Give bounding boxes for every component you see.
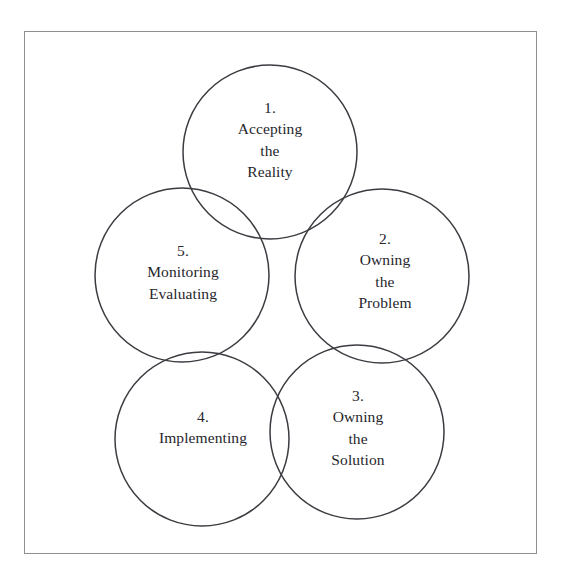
diagram-canvas: 1.AcceptingtheReality 2.OwningtheProblem… [0,0,566,586]
diagram-frame-border [24,31,537,554]
